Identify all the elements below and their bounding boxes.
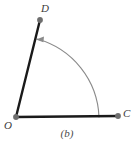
segment-oc [16,116,118,117]
angle-sweep-arc [37,39,99,117]
figure-canvas [0,0,134,146]
vertex-dot-o [13,114,19,120]
vertex-dot-c [115,113,121,119]
segment-od [16,20,40,117]
point-label-d: D [41,3,49,14]
point-label-c: C [123,108,130,119]
arc-arrowhead-icon [36,37,44,43]
geometry-figure: D O C (b) [0,0,134,146]
vertex-dot-d [37,17,43,23]
figure-caption: (b) [0,127,134,139]
